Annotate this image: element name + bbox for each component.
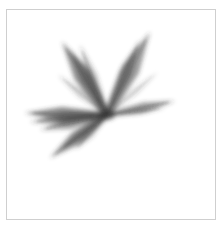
starburst-image — [0, 0, 224, 228]
soft-rays — [25, 32, 175, 158]
